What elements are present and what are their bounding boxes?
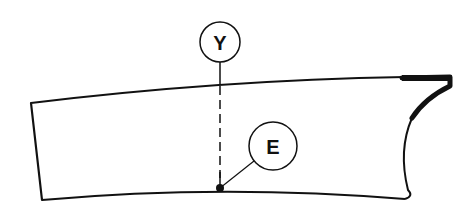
callout-e-label: E (266, 136, 279, 158)
highlighted-corner (402, 77, 450, 118)
panel-outline (31, 77, 405, 200)
panel-diagram: Y E (0, 0, 475, 208)
callout-y-label: Y (213, 32, 227, 54)
callout-e-leader (220, 161, 254, 188)
panel-right-edge (404, 118, 412, 199)
